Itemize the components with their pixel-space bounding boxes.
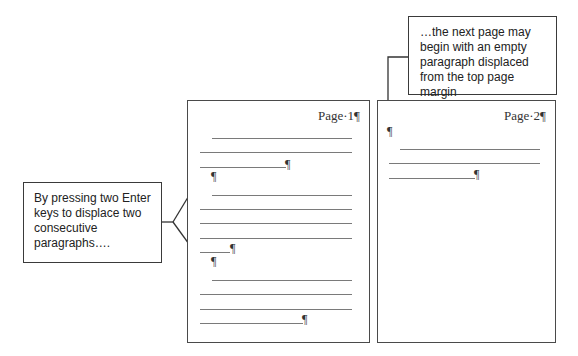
empty-paragraph-pilcrow: ¶ [387, 125, 392, 137]
pilcrow: ¶ [285, 158, 290, 170]
left-callout: By pressing two Enter keys to displace t… [23, 182, 162, 263]
left-callout-text: By pressing two Enter keys to displace t… [34, 191, 151, 250]
pilcrow: ¶ [474, 168, 479, 180]
pilcrow: ¶ [302, 313, 307, 325]
text-line [400, 149, 540, 150]
right-callout-text: …the next page may begin with an empty p… [420, 25, 531, 99]
text-line [200, 167, 286, 168]
page-1: Page·1¶ ¶ ¶ ¶ ¶ ¶ [187, 100, 370, 343]
text-line [200, 238, 352, 239]
empty-paragraph-pilcrow: ¶ [211, 170, 216, 182]
text-line [200, 309, 352, 310]
text-line [212, 280, 352, 281]
text-line [389, 163, 540, 164]
page-2: Page·2¶ ¶ ¶ [377, 100, 556, 343]
text-line [200, 252, 230, 253]
text-line [212, 195, 352, 196]
text-line [389, 178, 475, 179]
empty-paragraph-pilcrow: ¶ [211, 255, 216, 267]
text-line [200, 223, 352, 224]
text-line [212, 138, 352, 139]
right-callout: …the next page may begin with an empty p… [408, 16, 557, 95]
text-line [200, 152, 352, 153]
page-1-header: Page·1¶ [318, 108, 360, 124]
pilcrow: ¶ [230, 242, 235, 254]
text-line [200, 323, 303, 324]
text-line [200, 209, 352, 210]
text-line [200, 294, 352, 295]
page-2-header: Page·2¶ [504, 108, 546, 124]
